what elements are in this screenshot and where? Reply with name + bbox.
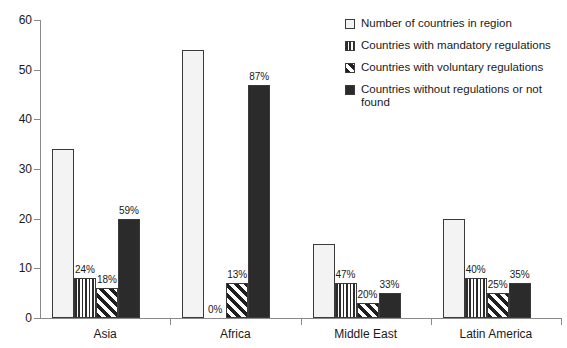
y-axis-tick-label: 50 bbox=[2, 64, 32, 76]
y-axis-tick-label: 60 bbox=[2, 14, 32, 26]
bar bbox=[182, 50, 204, 318]
chart-legend: Number of countries in regionCountries w… bbox=[345, 17, 565, 118]
legend-item: Countries without regulations or not fou… bbox=[345, 83, 565, 109]
legend-item-label: Countries with mandatory regulations bbox=[361, 39, 551, 52]
legend-item-label: Countries with voluntary regulations bbox=[361, 61, 543, 74]
bar bbox=[335, 283, 357, 318]
bar bbox=[313, 244, 335, 319]
legend-item: Countries with mandatory regulations bbox=[345, 39, 565, 52]
x-axis-category-label: Asia bbox=[40, 327, 170, 341]
bar-value-label: 33% bbox=[372, 280, 408, 290]
y-axis-tick-label: 0 bbox=[2, 312, 32, 324]
x-axis-category-label: Africa bbox=[170, 327, 300, 341]
legend-swatch-icon bbox=[345, 63, 355, 73]
bar-chart: 0102030405060 24%18%59%0%13%87%47%20%33%… bbox=[0, 0, 567, 348]
bar bbox=[52, 149, 74, 318]
bar-value-label: 40% bbox=[458, 265, 494, 275]
bar bbox=[226, 283, 248, 318]
y-axis-tick-label: 20 bbox=[2, 213, 32, 225]
bar bbox=[379, 293, 401, 318]
bar-value-label: 47% bbox=[328, 270, 364, 280]
y-axis-tick-label: 40 bbox=[2, 113, 32, 125]
bar-value-label: 59% bbox=[111, 206, 147, 216]
legend-swatch-icon bbox=[345, 19, 355, 29]
y-axis-tick bbox=[34, 318, 41, 319]
bar bbox=[96, 288, 118, 318]
x-axis-group-separator bbox=[301, 318, 302, 325]
bar bbox=[357, 303, 379, 318]
y-axis-tick-label: 10 bbox=[2, 262, 32, 274]
legend-swatch-icon bbox=[345, 85, 355, 95]
bar-value-label: 35% bbox=[502, 270, 538, 280]
x-axis-category-label: Middle East bbox=[301, 327, 431, 341]
bar bbox=[248, 85, 270, 318]
legend-swatch-icon bbox=[345, 41, 355, 51]
bar-value-label: 87% bbox=[241, 72, 277, 82]
bar bbox=[487, 293, 509, 318]
x-axis-group-separator bbox=[561, 318, 562, 325]
x-axis-category-label: Latin America bbox=[431, 327, 561, 341]
x-axis-group-separator bbox=[431, 318, 432, 325]
x-axis-group-separator bbox=[170, 318, 171, 325]
legend-item: Countries with voluntary regulations bbox=[345, 61, 565, 74]
legend-item: Number of countries in region bbox=[345, 17, 565, 30]
y-axis-tick-label: 30 bbox=[2, 163, 32, 175]
legend-item-label: Countries without regulations or not fou… bbox=[361, 83, 565, 109]
legend-item-label: Number of countries in region bbox=[361, 17, 512, 30]
bar bbox=[509, 283, 531, 318]
bar bbox=[118, 219, 140, 318]
